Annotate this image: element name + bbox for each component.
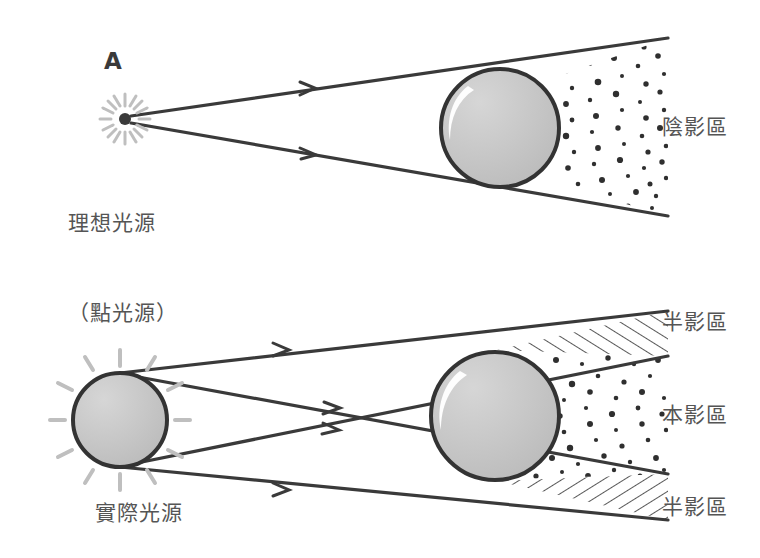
point-source-dot: [119, 113, 131, 125]
ideal-source-label: 理想光源 （點光源）: [68, 148, 178, 388]
point-light-source: [100, 94, 150, 144]
marker-label-a: A: [104, 48, 122, 74]
actual-source-label: 實際光源: [95, 498, 183, 528]
upper-diagram-point-source: [100, 36, 668, 216]
ray-arrowheads-lower: [273, 343, 340, 496]
illustration-canvas: A 理想光源 （點光源） 實際光源 陰影區 半影區 本影區 半影區: [0, 0, 760, 558]
object-sphere-upper: [441, 69, 559, 187]
light-ray-lower: [131, 123, 668, 216]
penumbra-bottom-label: 半影區: [662, 492, 728, 522]
object-sphere-lower: [431, 352, 559, 480]
umbra-label: 本影區: [662, 400, 728, 430]
shadow-zone-stipple: [563, 36, 669, 213]
light-ray-upper: [131, 38, 668, 116]
ray-cross-down: [122, 374, 668, 474]
ideal-source-line-1: 理想光源: [68, 208, 178, 238]
penumbra-top-label: 半影區: [662, 307, 728, 337]
shadow-zone-label: 陰影區: [662, 112, 728, 142]
ideal-source-line-2: （點光源）: [68, 298, 178, 328]
ray-arrowheads-upper: [300, 82, 316, 159]
light-ray-group-upper: [131, 38, 668, 216]
ray-cross-up: [122, 356, 668, 466]
penumbra-top-wedge: [497, 311, 668, 356]
